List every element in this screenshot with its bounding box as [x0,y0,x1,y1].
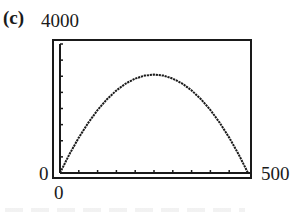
axes [60,44,250,173]
parabola-curve [60,75,248,173]
plot-area [0,0,297,216]
axis-ticks [60,44,229,173]
cropped-caption-fragment [5,208,245,212]
